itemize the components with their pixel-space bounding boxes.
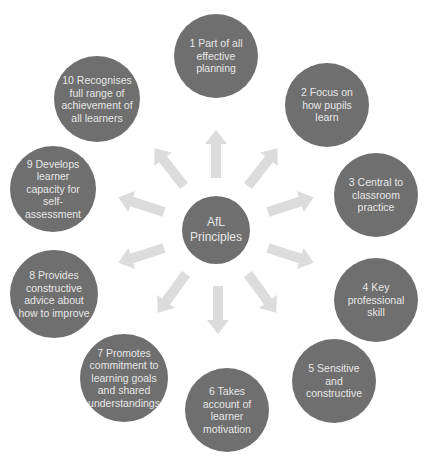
arrow-to-1: [205, 130, 227, 178]
principle-label-8: 8 Provides constructive advice about how…: [18, 269, 90, 319]
hub-node-afl-principles: AfL Principles: [182, 196, 250, 264]
arrow-to-6: [207, 286, 229, 334]
principle-label-7: 7 Promotes commitment to learning goals …: [86, 347, 162, 410]
principle-node-10: 10 Recognises full range of achievement …: [54, 56, 140, 142]
arrow-to-3: [265, 187, 317, 223]
principle-node-6: 6 Takes account of learner motivation: [185, 368, 269, 452]
arrow-to-5: [239, 268, 285, 320]
principle-label-3: 3 Central to classroom practice: [344, 176, 408, 214]
principle-label-5: 5 Sensitive and constructive: [302, 362, 366, 400]
principle-label-1: 1 Part of all effective planning: [184, 37, 248, 75]
arrow-to-7: [149, 268, 195, 320]
principle-label-2: 2 Focus on how pupils learn: [295, 86, 359, 124]
principle-node-3: 3 Central to classroom practice: [334, 153, 418, 237]
principle-label-4: 4 Key professional skill: [344, 281, 408, 319]
principle-node-8: 8 Provides constructive advice about how…: [10, 250, 98, 338]
principle-node-1: 1 Part of all effective planning: [174, 14, 258, 98]
arrow-to-2: [239, 141, 286, 192]
arrow-to-8: [115, 238, 167, 274]
hub-label: AfL Principles: [186, 215, 246, 245]
arrow-to-9: [115, 187, 167, 223]
principle-label-9: 9 Develops learner capacity for self-ass…: [16, 158, 90, 221]
arrow-to-4: [265, 238, 317, 274]
principle-node-5: 5 Sensitive and constructive: [292, 339, 376, 423]
arrow-to-10: [146, 141, 193, 192]
principle-label-10: 10 Recognises full range of achievement …: [60, 74, 134, 124]
principle-label-6: 6 Takes account of learner motivation: [195, 385, 259, 435]
principle-node-4: 4 Key professional skill: [334, 258, 418, 342]
principle-node-2: 2 Focus on how pupils learn: [285, 63, 369, 147]
principle-node-9: 9 Develops learner capacity for self-ass…: [10, 146, 96, 232]
afl-principles-diagram: AfL Principles 1 Part of all effective p…: [0, 0, 432, 459]
principle-node-7: 7 Promotes commitment to learning goals …: [80, 334, 168, 422]
